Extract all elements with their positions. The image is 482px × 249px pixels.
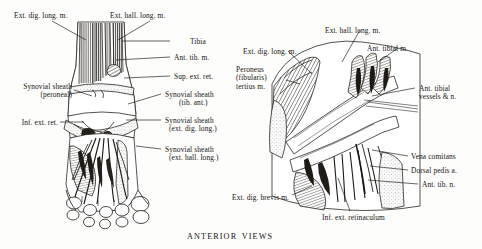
label-text: Ext. hall. long. m. bbox=[325, 26, 380, 35]
label-text: Ext. hall. long. m. bbox=[110, 11, 165, 20]
label-ant-tib-n: Ant. tib. n. bbox=[422, 181, 455, 189]
plate-caption: ANTERIOR VIEWS bbox=[187, 232, 273, 241]
label-dorsal-pedis-a: Dorsal pedis a. bbox=[411, 167, 457, 175]
label-text: Ant. tib. m. bbox=[174, 53, 209, 62]
label-synovial-sheath-tib-ant: Synovial sheath (tib. ant.) bbox=[165, 91, 214, 108]
label-synovial-sheath-peroneal: Synovial sheath (peroneal) bbox=[0, 83, 72, 100]
anatomy-plate: Ext. dig. long. m. Ext. hall. long. m. T… bbox=[0, 0, 482, 249]
label-subtext: vessels & n. bbox=[419, 93, 456, 101]
label-ext-dig-brevis-m: Ext. dig. brevis m. bbox=[205, 194, 289, 202]
left-figure-artwork bbox=[52, 20, 177, 232]
label-ant-tibial-m: Ant. tibial m. bbox=[367, 45, 408, 53]
label-subtext: (tib. ant.) bbox=[165, 99, 214, 107]
label-ext-dig-long-m: Ext. dig. long. m. bbox=[14, 12, 68, 20]
label-text: Ext. dig. long. m. bbox=[14, 11, 68, 20]
label-ext-hall-long-m: Ext. hall. long. m. bbox=[110, 12, 165, 20]
label-subtext-2: tertius m. bbox=[236, 83, 267, 91]
label-vena-comitans: Vena comitans bbox=[411, 153, 456, 161]
label-inf-ext-retinaculum: Inf. ext. retinaculum bbox=[322, 214, 385, 222]
label-text: Inf. ext. ret. bbox=[22, 118, 58, 127]
label-synovial-sheath-ext-hall-long: Synovial sheath (ext. hall. long.) bbox=[165, 146, 219, 163]
right-figure-artwork bbox=[268, 40, 424, 212]
label-sup-ext-ret: Sup. ext. ret. bbox=[174, 73, 213, 81]
label-text: Ext. dig. long. m. bbox=[243, 47, 297, 56]
label-subtext: (ext. hall. long.) bbox=[165, 154, 219, 162]
label-ant-tibial-vessels-and-n: Ant. tibial vessels & n. bbox=[419, 85, 456, 102]
label-text: Tibia bbox=[190, 37, 206, 46]
label-inf-ext-ret: Inf. ext. ret. bbox=[0, 119, 58, 127]
label-text: Sup. ext. ret. bbox=[174, 72, 213, 81]
label-peroneus-fibularis-tertius-m: Peroneus (fibularis) tertius m. bbox=[236, 66, 267, 91]
label-text: Inf. ext. retinaculum bbox=[322, 213, 385, 222]
label-ext-hall-long-m-right: Ext. hall. long. m. bbox=[325, 27, 380, 35]
label-synovial-sheath-ext-dig-long: Synovial sheath (ext. dig. long.) bbox=[165, 117, 217, 134]
label-text: Ext. dig. brevis m. bbox=[232, 193, 289, 202]
label-tibia: Tibia bbox=[190, 38, 206, 46]
label-subtext: (peroneal) bbox=[0, 91, 72, 99]
label-text: Ant. tibial m. bbox=[367, 44, 408, 53]
label-ant-tib-m: Ant. tib. m. bbox=[174, 54, 209, 62]
label-text: Dorsal pedis a. bbox=[411, 166, 457, 175]
label-text: Ant. tib. n. bbox=[422, 180, 455, 189]
label-text: Vena comitans bbox=[411, 152, 456, 161]
label-ext-dig-long-m-right: Ext. dig. long. m. bbox=[243, 48, 297, 56]
label-subtext: (ext. dig. long.) bbox=[165, 125, 217, 133]
